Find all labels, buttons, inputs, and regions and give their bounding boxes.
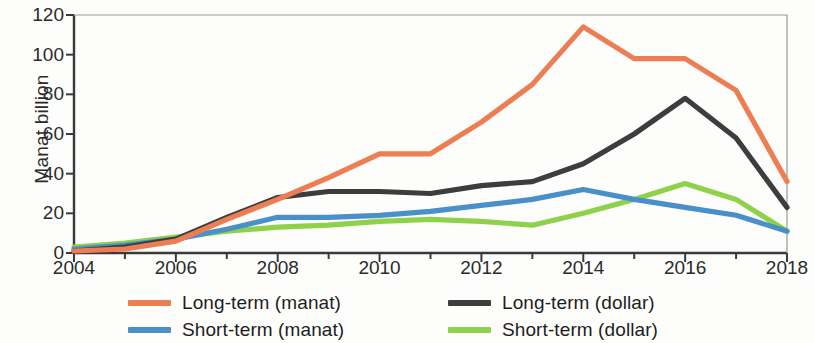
legend-label: Long-term (dollar): [502, 292, 655, 314]
chart-figure: Manat billion 020406080100120 2004200620…: [0, 0, 814, 343]
legend-swatch-icon: [128, 300, 171, 306]
legend-swatch-icon: [448, 300, 491, 306]
chart-legend: Long-term (manat)Long-term (dollar)Short…: [128, 289, 748, 343]
legend-item: Long-term (manat): [128, 292, 448, 314]
legend-label: Short-term (manat): [182, 319, 344, 341]
legend-item: Long-term (dollar): [448, 292, 748, 314]
series-lines: [74, 27, 787, 251]
legend-item: Short-term (manat): [128, 319, 448, 341]
series-line: [74, 98, 787, 251]
legend-label: Short-term (dollar): [502, 319, 658, 341]
legend-label: Long-term (manat): [182, 292, 341, 314]
legend-item: Short-term (dollar): [448, 319, 748, 341]
legend-swatch-icon: [128, 327, 171, 333]
axis-tick-marks: [66, 15, 787, 262]
legend-swatch-icon: [448, 327, 491, 333]
